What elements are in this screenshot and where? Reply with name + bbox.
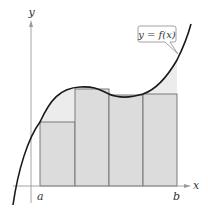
- point-a-label: a: [37, 190, 44, 203]
- x-axis-arrow-icon: [184, 184, 191, 188]
- y-axis: [29, 20, 33, 203]
- rectangle-2: [75, 89, 109, 186]
- y-axis-arrow-icon: [29, 20, 33, 27]
- rectangle-4: [143, 94, 177, 186]
- point-b-label: b: [173, 190, 180, 203]
- rectangle-1: [40, 122, 75, 186]
- rectangle-3: [109, 95, 143, 186]
- riemann-sum-diagram: y = f(x) y x a b: [0, 0, 208, 214]
- function-label: y = f(x): [137, 29, 176, 40]
- x-axis-label: x: [193, 179, 200, 192]
- function-label-callout: y = f(x): [137, 26, 178, 54]
- y-axis-label: y: [28, 6, 36, 19]
